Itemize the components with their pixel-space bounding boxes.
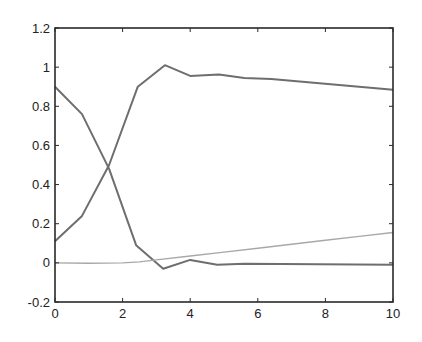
x-tick-label: 2 — [119, 306, 126, 321]
x-tick-label: 8 — [322, 306, 329, 321]
y-tick-label: -0.2 — [28, 295, 50, 310]
y-tick-label: 1 — [43, 60, 50, 75]
y-axis: -0.200.20.40.60.811.2 — [28, 21, 393, 310]
y-tick-label: 0.4 — [32, 177, 50, 192]
series-line-3 — [55, 233, 393, 264]
series-layer — [55, 65, 393, 269]
y-tick-label: 1.2 — [32, 21, 50, 36]
chart-canvas: 0246810 -0.200.20.40.60.811.2 — [0, 0, 422, 342]
x-tick-label: 6 — [254, 306, 261, 321]
series-line-1 — [55, 65, 393, 241]
x-tick-label: 0 — [51, 306, 58, 321]
y-tick-label: 0.8 — [32, 99, 50, 114]
line-chart: 0246810 -0.200.20.40.60.811.2 — [0, 0, 422, 342]
x-tick-label: 10 — [386, 306, 400, 321]
y-tick-label: 0 — [43, 255, 50, 270]
y-tick-label: 0.2 — [32, 216, 50, 231]
series-line-2 — [55, 87, 393, 269]
y-tick-label: 0.6 — [32, 138, 50, 153]
axes-frame — [55, 28, 393, 302]
x-tick-label: 4 — [187, 306, 194, 321]
